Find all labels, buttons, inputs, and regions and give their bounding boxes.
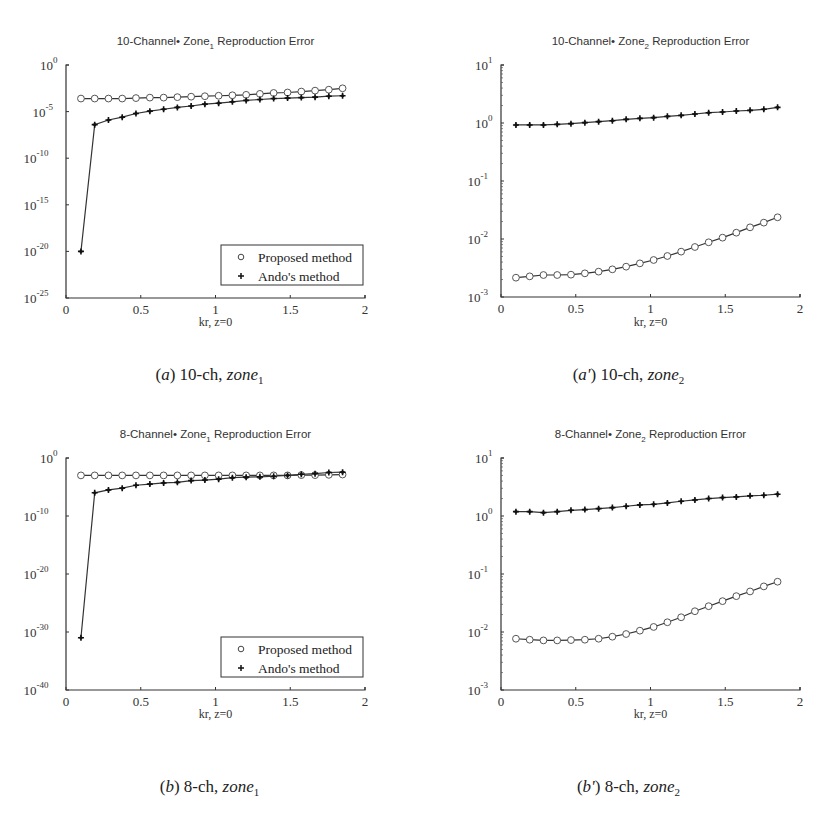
dot-marker <box>327 471 330 474</box>
circle-marker <box>243 91 250 98</box>
circle-marker <box>719 598 726 605</box>
dot-marker <box>597 507 600 510</box>
series-andos-method <box>513 491 781 515</box>
x-tick-label: 1.5 <box>717 694 733 709</box>
y-tick-label: 10-2 <box>468 622 489 640</box>
x-axis-label: kr, z=0 <box>199 315 233 329</box>
circle-marker <box>636 627 643 634</box>
dot-marker <box>107 488 110 491</box>
dot-marker <box>693 498 696 501</box>
x-tick-label: 1.5 <box>717 301 733 316</box>
circle-marker <box>664 253 671 260</box>
dot-marker <box>148 110 151 113</box>
x-axis-label: kr, z=0 <box>634 315 668 329</box>
y-tick-label: 10-30 <box>24 622 49 640</box>
dot-marker <box>176 106 179 109</box>
chart-8ch-zone2: 8-Channel• Zone2 Reproduction Error00.51… <box>419 400 838 740</box>
dot-marker <box>121 116 124 119</box>
circle-marker <box>581 636 588 643</box>
dot-marker <box>597 120 600 123</box>
dot-marker <box>776 106 779 109</box>
circle-marker <box>747 224 754 231</box>
circle-marker <box>609 266 616 273</box>
y-tick-label: 100 <box>475 506 493 524</box>
y-tick-label: 100 <box>475 113 493 131</box>
dot-marker <box>190 104 193 107</box>
circle-marker <box>733 229 740 236</box>
circle-marker <box>692 244 699 251</box>
dot-marker <box>542 511 545 514</box>
y-tick-label: 10-10 <box>24 148 49 166</box>
x-tick-label: 1.5 <box>282 302 298 317</box>
axes <box>501 458 800 690</box>
dot-marker <box>79 250 82 253</box>
circle-marker <box>119 95 126 102</box>
circle-marker <box>325 86 332 93</box>
dot-marker <box>231 100 234 103</box>
dot-marker <box>638 117 641 120</box>
dot-marker <box>735 495 738 498</box>
dot-marker <box>652 116 655 119</box>
dot-marker <box>569 509 572 512</box>
circle-marker <box>339 85 346 92</box>
chart-10ch-zone2: 10-Channel• Zone2 Reproduction Error00.5… <box>419 0 838 340</box>
circle-marker <box>568 637 575 644</box>
dot-marker <box>79 636 82 639</box>
y-tick-label: 10-2 <box>468 229 489 247</box>
y-tick-label: 10-5 <box>33 102 54 120</box>
circle-marker <box>270 90 277 97</box>
x-tick-label: 1.5 <box>282 694 298 709</box>
circle-marker <box>650 624 657 631</box>
panel-a-10ch-zone1: 10-Channel• Zone1 Reproduction Error00.5… <box>0 0 419 407</box>
x-tick-label: 0.5 <box>568 694 584 709</box>
circle-marker <box>705 603 712 610</box>
dot-marker <box>569 122 572 125</box>
circle-marker <box>774 578 781 585</box>
chart-title: 10-Channel• Zone2 Reproduction Error <box>552 35 750 51</box>
panel-a-prime-10ch-zone2: 10-Channel• Zone2 Reproduction Error00.5… <box>419 0 838 407</box>
dot-marker <box>707 497 710 500</box>
dot-marker <box>666 501 669 504</box>
dot-marker <box>652 503 655 506</box>
dot-marker <box>341 471 344 474</box>
y-tick-label: 10-20 <box>24 241 49 259</box>
circle-marker <box>298 88 305 95</box>
dot-marker <box>341 94 344 97</box>
caption-b: (b) 8-ch, zone1 <box>0 777 419 798</box>
x-tick-label: 2 <box>797 694 804 709</box>
dot-marker <box>748 494 751 497</box>
circle-marker <box>229 92 236 99</box>
dot-marker <box>762 494 765 497</box>
legend-label: Proposed method <box>258 250 352 265</box>
circle-marker <box>78 472 85 479</box>
x-axis-label: kr, z=0 <box>199 707 233 721</box>
chart-8ch-zone1: 8-Channel• Zone1 Reproduction Error00.51… <box>0 400 419 740</box>
x-tick-label: 2 <box>797 301 804 316</box>
circle-marker <box>119 472 126 479</box>
circle-marker <box>160 472 167 479</box>
dot-marker <box>625 118 628 121</box>
y-tick-label: 10-3 <box>468 680 489 698</box>
y-tick-label: 10-10 <box>24 506 49 524</box>
circle-marker <box>760 219 767 226</box>
x-tick-label: 0 <box>63 694 70 709</box>
dot-marker <box>245 99 248 102</box>
legend-circle-icon <box>238 646 244 652</box>
x-tick-label: 2 <box>362 694 369 709</box>
circle-marker <box>540 272 547 279</box>
circle-marker <box>650 257 657 264</box>
dot-marker <box>327 95 330 98</box>
circle-marker <box>526 636 533 643</box>
circle-marker <box>105 472 112 479</box>
dot-marker <box>231 476 234 479</box>
y-tick-label: 10-25 <box>24 288 49 306</box>
circle-marker <box>692 608 699 615</box>
dot-marker <box>313 96 316 99</box>
y-tick-label: 10-15 <box>24 195 49 213</box>
x-tick-label: 0 <box>498 694 505 709</box>
circle-marker <box>595 268 602 275</box>
dot-marker <box>707 111 710 114</box>
legend-label: Ando's method <box>258 269 340 284</box>
dot-marker <box>286 96 289 99</box>
series-proposed-method <box>513 578 781 643</box>
